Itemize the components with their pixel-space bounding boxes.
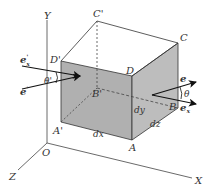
- x-axis: [47, 143, 192, 178]
- label-dz: dz: [150, 119, 161, 129]
- cube-diagram: Y X Z O C' C D' D B' B A' A dx dy dz e'x…: [0, 0, 214, 192]
- label-theta-prime: θ': [44, 76, 52, 86]
- label-e-x: ex: [180, 102, 190, 114]
- label-b-prime: B': [91, 88, 102, 99]
- label-dx: dx: [93, 129, 104, 139]
- label-e-prime: e': [20, 85, 28, 97]
- label-b: B: [168, 101, 176, 112]
- label-a-prime: A': [52, 125, 63, 136]
- angle-arc-theta: [180, 87, 182, 99]
- label-theta: θ: [184, 89, 190, 99]
- label-e: e: [180, 73, 186, 84]
- label-d-prime: D': [49, 54, 61, 65]
- label-d: D: [125, 65, 134, 76]
- label-x-axis: X: [194, 175, 203, 186]
- label-origin: O: [42, 147, 50, 158]
- label-z-axis: Z: [8, 171, 17, 182]
- label-y-axis: Y: [44, 10, 52, 21]
- label-c: C: [180, 32, 188, 43]
- label-a: A: [128, 142, 136, 153]
- label-c-prime: C': [93, 8, 103, 19]
- label-dy: dy: [134, 105, 146, 115]
- label-e-x-prime: e'x: [20, 53, 30, 67]
